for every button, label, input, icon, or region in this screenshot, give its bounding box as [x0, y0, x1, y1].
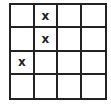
grid-cell-r1-c3: [82, 28, 106, 51]
grid-cell-r2-c2: [58, 52, 82, 75]
grid-cell-r0-c0: [11, 5, 35, 28]
grid-cell-r1-c1: x: [35, 28, 59, 51]
grid-cell-r1-c2: [58, 28, 82, 51]
grid-cell-r3-c2: [58, 75, 82, 98]
grid-cell-r2-c3: [82, 52, 106, 75]
grid-cell-r2-c0: x: [11, 52, 35, 75]
grid-cell-r1-c0: [11, 28, 35, 51]
grid-cell-r0-c1: x: [35, 5, 59, 28]
grid-cell-r3-c1: [35, 75, 59, 98]
grid-cell-r3-c3: [82, 75, 106, 98]
tic-grid: x x x: [9, 3, 107, 100]
grid-cell-r2-c1: [35, 52, 59, 75]
grid-cell-r0-c3: [82, 5, 106, 28]
grid-cell-r3-c0: [11, 75, 35, 98]
grid-cell-r0-c2: [58, 5, 82, 28]
